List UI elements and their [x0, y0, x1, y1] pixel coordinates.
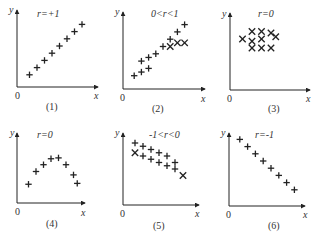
- correlation-annotation: r=-1: [255, 129, 274, 140]
- data-point-marker: [249, 45, 255, 51]
- data-point-marker: [167, 36, 173, 42]
- scatter-panel-4: y r=0 0 x (4): [0, 115, 105, 237]
- data-point-marker: [70, 172, 76, 178]
- data-point-marker: [26, 72, 32, 78]
- correlation-annotation: r=0: [37, 129, 53, 140]
- data-point-marker: [268, 30, 274, 36]
- origin-label: 0: [120, 92, 125, 103]
- data-point-marker: [153, 51, 159, 57]
- data-point-marker: [79, 21, 85, 27]
- data-point-marker: [34, 64, 40, 70]
- data-point-marker: [63, 162, 69, 168]
- data-point-marker: [164, 163, 170, 169]
- y-axis-label: y: [221, 127, 225, 138]
- panel-caption: (3): [268, 103, 280, 114]
- scatter-panel-1: y r=+1 0 x (1): [0, 0, 105, 118]
- scatter-panel-3: y r=0 0 x (3): [210, 0, 315, 118]
- y-axis-label: y: [9, 4, 13, 15]
- scatter-panel-5: y -1<r<0 0 x (5): [105, 115, 210, 237]
- data-point-marker: [258, 36, 264, 42]
- x-axis-label: x: [306, 93, 310, 104]
- data-point-marker: [181, 21, 187, 27]
- data-point-marker: [258, 45, 264, 51]
- panel-caption: (2): [152, 103, 164, 114]
- scatter-panel-2: y 0<r<1 0 x (2): [105, 0, 210, 118]
- origin-label: 0: [226, 209, 231, 220]
- data-point-marker: [148, 156, 154, 162]
- data-point-marker: [132, 150, 138, 156]
- x-axis-label: x: [81, 207, 85, 218]
- data-point-marker: [49, 50, 55, 56]
- y-axis-label: y: [115, 6, 119, 17]
- data-point-marker: [268, 45, 274, 51]
- data-point-marker: [180, 172, 186, 178]
- data-point-marker: [25, 181, 31, 187]
- data-point-marker: [237, 136, 243, 142]
- data-point-marker: [48, 156, 54, 162]
- data-point-marker: [239, 36, 245, 42]
- y-axis-label: y: [222, 8, 226, 19]
- data-point-marker: [258, 28, 264, 34]
- data-point-marker: [181, 40, 187, 46]
- data-point-marker: [41, 57, 47, 63]
- data-point-marker: [273, 34, 279, 40]
- data-point-marker: [167, 43, 173, 49]
- origin-label: 0: [227, 93, 232, 104]
- origin-label: 0: [15, 90, 20, 101]
- data-point-marker: [268, 165, 274, 171]
- data-point-marker: [156, 159, 162, 165]
- y-axis-label: y: [115, 127, 119, 138]
- data-point-marker: [156, 150, 162, 156]
- origin-label: 0: [120, 208, 125, 219]
- data-point-marker: [174, 40, 180, 46]
- data-point-marker: [291, 187, 297, 193]
- data-point-marker: [174, 29, 180, 35]
- scatter-panel-6: y r=-1 0 x (6): [210, 115, 315, 237]
- x-axis-label: x: [303, 209, 307, 220]
- correlation-annotation: r=0: [258, 8, 274, 19]
- data-point-marker: [172, 159, 178, 165]
- panel-caption: (5): [153, 220, 165, 231]
- x-axis-label: x: [94, 90, 98, 101]
- data-point-marker: [33, 168, 39, 174]
- data-point-marker: [260, 158, 266, 164]
- data-point-marker: [145, 54, 151, 60]
- data-point-marker: [56, 43, 62, 49]
- data-point-marker: [140, 153, 146, 159]
- data-point-marker: [55, 155, 61, 161]
- data-point-marker: [71, 28, 77, 34]
- data-point-marker: [244, 143, 250, 149]
- data-point-marker: [132, 140, 138, 146]
- data-point-marker: [131, 73, 137, 79]
- data-point-marker: [140, 143, 146, 149]
- x-axis-label: x: [195, 208, 199, 219]
- correlation-annotation: -1<r<0: [149, 129, 180, 140]
- y-axis-label: y: [10, 127, 14, 138]
- data-point-marker: [148, 146, 154, 152]
- correlation-annotation: r=+1: [37, 8, 59, 19]
- origin-label: 0: [15, 206, 20, 217]
- data-point-marker: [145, 65, 151, 71]
- data-point-marker: [164, 153, 170, 159]
- data-point-marker: [276, 172, 282, 178]
- data-point-marker: [249, 28, 255, 34]
- data-point-marker: [160, 43, 166, 49]
- x-axis-label: x: [201, 93, 205, 104]
- panel-caption: (4): [46, 218, 58, 229]
- correlation-annotation: 0<r<1: [151, 8, 178, 19]
- data-point-marker: [252, 151, 258, 157]
- panel-caption: (6): [268, 220, 280, 231]
- data-point-marker: [74, 180, 80, 186]
- data-point-marker: [172, 166, 178, 172]
- data-point-marker: [138, 58, 144, 64]
- data-point-marker: [249, 38, 255, 44]
- data-point-marker: [40, 162, 46, 168]
- data-point-marker: [283, 179, 289, 185]
- data-point-marker: [138, 69, 144, 75]
- data-point-marker: [64, 36, 70, 42]
- panel-caption: (1): [46, 101, 58, 112]
